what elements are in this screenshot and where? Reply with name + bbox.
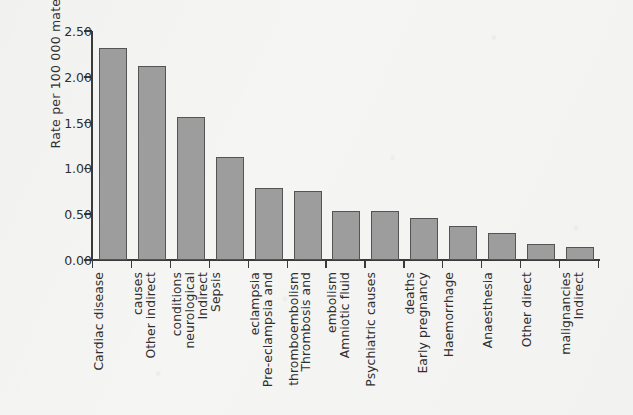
bar [488, 233, 516, 260]
x-axis-tick-mark [598, 260, 599, 268]
x-axis-tick-mark [559, 260, 560, 268]
category-label-line: Sepsis [210, 272, 223, 312]
x-axis-category-label: Psychiatric causes [365, 272, 405, 404]
category-label-line: Amniotic fluid [339, 272, 352, 358]
bar [294, 191, 322, 260]
bar [99, 48, 127, 260]
x-axis-tick-mark [170, 260, 171, 268]
category-label-line: Other indirect [145, 272, 158, 359]
bar [255, 188, 283, 260]
bar [566, 247, 594, 260]
x-axis-category-label: Other direct [521, 272, 561, 404]
bar [527, 244, 555, 260]
category-label-line: deaths [404, 272, 417, 315]
bar [177, 117, 205, 260]
x-axis-tick-mark [209, 260, 210, 268]
y-axis-tick-label: 1.50 [48, 115, 92, 130]
bar-chart-figure: Rate per 100 000 maternities 0.000.501.0… [0, 0, 633, 415]
bar [410, 218, 438, 260]
x-axis-category-label: Pre-eclampsia andeclampsia [249, 272, 289, 404]
category-label-line: malignancies [560, 272, 573, 355]
x-axis-category-label: Sepsis [210, 272, 250, 404]
y-axis-line [91, 31, 93, 260]
bar [138, 66, 166, 260]
y-axis-tick-label: 1.00 [48, 161, 92, 176]
x-axis-tick-mark [287, 260, 288, 268]
category-label-line: Thrombosis and [300, 272, 313, 372]
x-axis-category-label: Amniotic fluidembolism [326, 272, 366, 404]
category-label-line: Anaesthesia [482, 272, 495, 348]
category-label-line: eclampsia [249, 272, 262, 335]
category-label-line: Indirect [573, 272, 586, 319]
y-axis-tick-label: 2.00 [48, 69, 92, 84]
x-axis-tick-mark [248, 260, 249, 268]
x-axis-tick-mark [442, 260, 443, 268]
x-axis-category-label: Haemorrhage [443, 272, 483, 404]
category-label-line: Psychiatric causes [365, 272, 378, 387]
category-label-line: neurological [184, 272, 197, 349]
x-axis-category-label: Cardiac disease [93, 272, 133, 404]
x-axis-tick-mark [325, 260, 326, 268]
bar [332, 211, 360, 260]
x-axis-category-label: Anaesthesia [482, 272, 522, 404]
category-label-line: Indirect [197, 272, 210, 319]
bar [371, 211, 399, 260]
x-axis-tick-mark [520, 260, 521, 268]
y-axis-tick-label: 0.00 [48, 253, 92, 268]
category-label-line: causes [132, 272, 145, 315]
x-axis-category-label: Indirectneurologicalconditions [171, 272, 211, 404]
y-axis-tick-label: 2.50 [48, 24, 92, 39]
category-label-line: conditions [171, 272, 184, 336]
x-axis-category-label: Early pregnancydeaths [404, 272, 444, 404]
x-axis-category-label: Indirectmalignancies [560, 272, 600, 404]
x-axis-tick-mark [403, 260, 404, 268]
x-axis-tick-mark [131, 260, 132, 268]
category-label-line: Pre-eclampsia and [262, 272, 275, 387]
x-axis-tick-mark [364, 260, 365, 268]
category-label-line: Early pregnancy [417, 272, 430, 374]
x-axis-category-label: Thrombosis andthromboembolism [288, 272, 328, 404]
x-axis-category-label: Other indirectcauses [132, 272, 172, 404]
bar [216, 157, 244, 260]
x-axis-tick-mark [481, 260, 482, 268]
category-label-line: Haemorrhage [443, 272, 456, 357]
category-label-line: Cardiac disease [93, 272, 106, 371]
bar [449, 226, 477, 260]
category-label-line: embolism [326, 272, 339, 333]
category-label-line: thromboembolism [288, 272, 301, 386]
y-axis-tick-label: 0.50 [48, 207, 92, 222]
x-axis-tick-mark [92, 260, 93, 268]
category-label-line: Other direct [521, 272, 534, 347]
